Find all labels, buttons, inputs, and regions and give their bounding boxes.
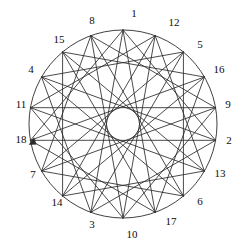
vertex-label-15: 15 [54,34,65,45]
vertex-label-4: 4 [28,64,34,75]
chord-layer [30,30,215,218]
vertex-label-5: 5 [197,39,203,50]
vertex-label-6: 6 [197,196,203,207]
vertex-label-8: 8 [89,15,95,26]
vertex-label-14: 14 [52,197,63,208]
vertex-label-10: 10 [127,229,138,240]
outer-circle-layer [29,30,217,218]
vertex-label-13: 13 [215,168,226,179]
vertex-label-3: 3 [89,219,95,230]
circular-graph-svg [0,0,246,250]
figure-root: 112516921361710314718114158 [0,0,246,250]
vertex-label-17: 17 [166,216,177,227]
vertex-label-1: 1 [131,8,137,19]
outer-circle [29,30,217,218]
vertex-label-16: 16 [214,64,225,75]
vertex-label-18: 18 [16,134,27,145]
vertex-label-9: 9 [225,99,231,110]
vertex-label-2: 2 [226,135,232,146]
vertex-label-7: 7 [30,169,36,180]
vertex-label-11: 11 [16,99,27,110]
vertex-label-12: 12 [169,17,180,28]
